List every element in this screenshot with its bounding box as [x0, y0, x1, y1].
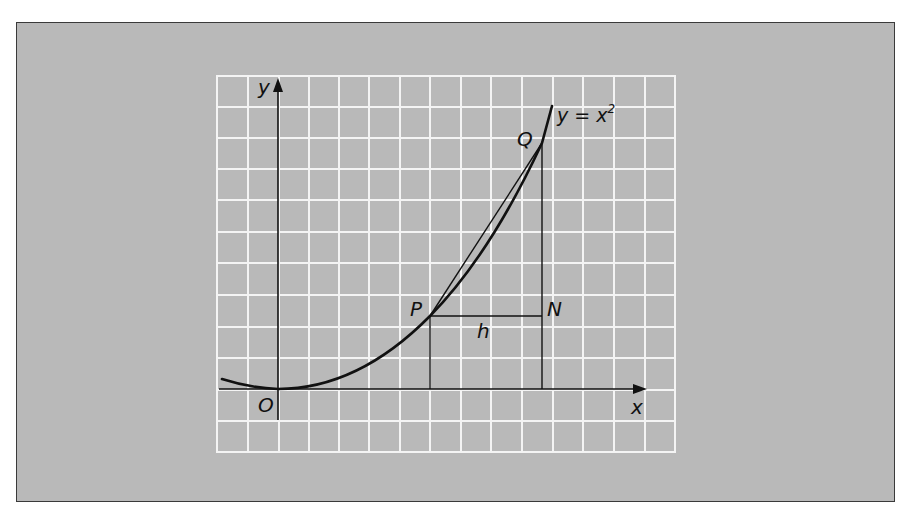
point-n-label: N [547, 297, 562, 321]
axes [219, 90, 636, 420]
parabola-curve [222, 106, 552, 389]
curve-equation-base: y = x [556, 104, 608, 126]
curve-equation-label: y = x2 [556, 102, 615, 126]
y-axis-arrow-icon [273, 78, 283, 92]
origin-label: O [258, 393, 274, 417]
point-q-label: Q [517, 127, 533, 151]
diagram-canvas: y x O y = x2 Q P N h [0, 0, 898, 522]
point-p-label: P [410, 297, 423, 321]
curve-equation-exponent: 2 [608, 102, 616, 116]
y-axis-label: y [257, 75, 271, 99]
increment-h-label: h [477, 319, 490, 343]
grid [217, 76, 675, 452]
x-axis-label: x [630, 395, 643, 419]
